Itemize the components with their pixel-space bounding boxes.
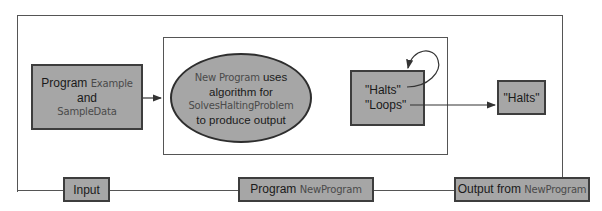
connector-arrows	[0, 0, 602, 211]
halts-loop-arrow	[407, 51, 439, 87]
